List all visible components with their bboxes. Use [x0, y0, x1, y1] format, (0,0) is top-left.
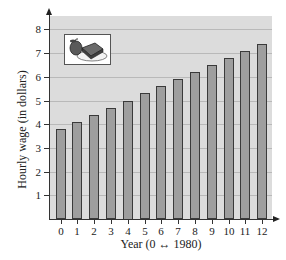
y-tick-mark: [44, 172, 50, 173]
lunch-illustration: [64, 34, 111, 65]
bar-year-2: [89, 115, 99, 219]
x-tick-label: 5: [137, 225, 153, 237]
x-tick-label: 11: [237, 225, 253, 237]
y-tick-label: 4: [29, 118, 41, 130]
x-tick-label: 1: [69, 225, 85, 237]
bar-year-6: [156, 86, 166, 219]
x-tick-mark: [262, 219, 263, 224]
bar-year-1: [72, 122, 82, 219]
lunch-plate-icon: [65, 35, 110, 64]
y-tick-mark: [44, 29, 50, 30]
x-tick-label: 0: [53, 225, 69, 237]
x-tick-mark: [212, 219, 213, 224]
y-tick-label: 6: [29, 71, 41, 83]
x-tick-mark: [161, 219, 162, 224]
x-tick-mark: [245, 219, 246, 224]
bar-year-3: [106, 108, 116, 219]
x-tick-mark: [61, 219, 62, 224]
y-tick-mark: [44, 101, 50, 102]
bar-year-7: [173, 79, 183, 219]
bar-year-5: [140, 93, 150, 219]
x-tick-label: 10: [221, 225, 237, 237]
x-tick-mark: [128, 219, 129, 224]
bar-year-8: [190, 72, 200, 219]
y-tick-mark: [44, 77, 50, 78]
x-tick-label: 8: [187, 225, 203, 237]
y-tick-label: 5: [29, 95, 41, 107]
bar-year-10: [224, 58, 234, 219]
x-tick-label: 9: [204, 225, 220, 237]
x-tick-label: 3: [103, 225, 119, 237]
bar-year-12: [257, 44, 267, 219]
bar-year-9: [207, 65, 217, 219]
y-tick-mark: [44, 53, 50, 54]
y-tick-label: 3: [29, 142, 41, 154]
y-axis-title: Hourly wage (in dollars): [15, 50, 30, 210]
x-axis-arrow-icon: [273, 216, 280, 222]
gridline: [49, 77, 272, 78]
x-tick-mark: [77, 219, 78, 224]
y-tick-mark: [44, 124, 50, 125]
bar-year-11: [240, 51, 250, 219]
x-tick-mark: [229, 219, 230, 224]
x-axis-title: Year (0 ↔ 1980): [61, 237, 261, 252]
y-tick-mark: [44, 195, 50, 196]
y-tick-label: 2: [29, 166, 41, 178]
y-axis-arrow-icon: [46, 8, 52, 15]
x-tick-label: 7: [170, 225, 186, 237]
x-tick-mark: [111, 219, 112, 224]
y-tick-mark: [44, 148, 50, 149]
y-axis: [49, 12, 50, 220]
y-tick-label: 7: [29, 47, 41, 59]
y-tick-label: 8: [29, 23, 41, 35]
bar-year-0: [56, 129, 66, 219]
x-tick-mark: [145, 219, 146, 224]
x-tick-label: 4: [120, 225, 136, 237]
bar-year-4: [123, 101, 133, 220]
gridline: [49, 29, 272, 30]
x-tick-label: 2: [86, 225, 102, 237]
x-tick-mark: [178, 219, 179, 224]
x-tick-label: 6: [153, 225, 169, 237]
x-tick-mark: [94, 219, 95, 224]
x-tick-mark: [195, 219, 196, 224]
y-tick-label: 1: [29, 189, 41, 201]
x-tick-label: 12: [254, 225, 270, 237]
bar-chart: 12345678 0123456789101112 Year (0 ↔ 1980…: [0, 0, 286, 260]
